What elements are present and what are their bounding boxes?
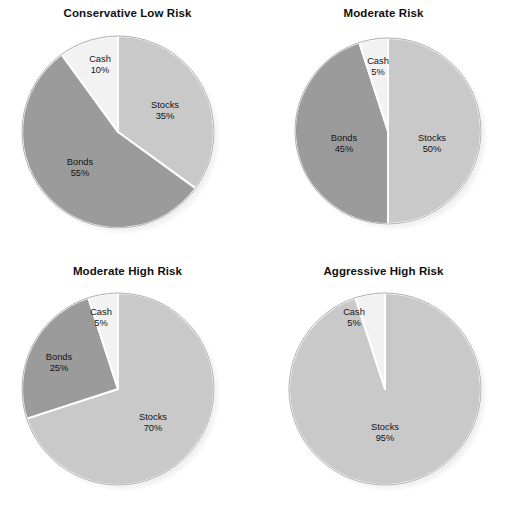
chart-title: Conservative Low Risk bbox=[0, 6, 255, 20]
slice-label-value: 5% bbox=[371, 67, 384, 77]
chart-title: Aggressive High Risk bbox=[256, 264, 511, 278]
slice-label-name: Stocks bbox=[151, 100, 179, 110]
slice-label-value: 45% bbox=[335, 144, 354, 154]
slice-label-name: Bonds bbox=[67, 157, 94, 167]
slice-label-name: Stocks bbox=[371, 422, 399, 432]
chart-title: Moderate Risk bbox=[256, 6, 511, 20]
slice-label-cash: Cash10% bbox=[89, 54, 111, 75]
chart-title: Moderate High Risk bbox=[0, 264, 255, 278]
slice-label-value: 70% bbox=[144, 423, 163, 433]
slice-label-value: 5% bbox=[94, 318, 107, 328]
slice-label-name: Bonds bbox=[46, 352, 73, 362]
slice-label-name: Stocks bbox=[418, 133, 446, 143]
pie-chart-svg: Stocks50%Bonds45%Cash5% bbox=[256, 0, 511, 258]
pie-chart-panel: Stocks50%Bonds45%Cash5%Moderate Risk bbox=[256, 0, 511, 258]
pie-chart-panel: Stocks70%Bonds25%Cash5%Moderate High Ris… bbox=[0, 258, 255, 516]
pie-chart-panel: Stocks95%Cash5%Aggressive High Risk bbox=[256, 258, 511, 516]
pie-chart-svg: Stocks95%Cash5% bbox=[256, 258, 511, 516]
slice-label-value: 55% bbox=[71, 168, 90, 178]
slice-label-value: 25% bbox=[50, 363, 69, 373]
slice-label-value: 10% bbox=[91, 65, 110, 75]
slice-label-value: 95% bbox=[376, 433, 395, 443]
pie-chart-grid: Stocks35%Bonds55%Cash10%Conservative Low… bbox=[0, 0, 511, 516]
slice-label-value: 5% bbox=[347, 318, 360, 328]
pie-chart-svg: Stocks35%Bonds55%Cash10% bbox=[0, 0, 255, 258]
slice-label-name: Bonds bbox=[331, 133, 358, 143]
slice-label-name: Cash bbox=[367, 56, 389, 66]
pie-chart-panel: Stocks35%Bonds55%Cash10%Conservative Low… bbox=[0, 0, 255, 258]
slice-label-name: Cash bbox=[343, 307, 365, 317]
slice-label-value: 35% bbox=[156, 111, 175, 121]
slice-label-value: 50% bbox=[423, 144, 442, 154]
slice-label-name: Cash bbox=[90, 307, 112, 317]
slice-label-name: Stocks bbox=[139, 412, 167, 422]
pie-chart-svg: Stocks70%Bonds25%Cash5% bbox=[0, 258, 255, 516]
pie-slice-stocks[interactable] bbox=[388, 38, 481, 224]
slice-label-name: Cash bbox=[89, 54, 111, 64]
